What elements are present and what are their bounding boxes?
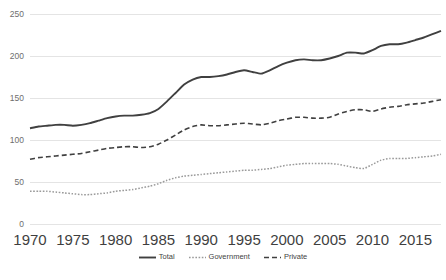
series-line-government — [30, 154, 441, 194]
legend-swatch-dotted-icon — [189, 254, 206, 261]
legend-entry-private[interactable]: Private — [264, 253, 307, 261]
gridlines — [30, 14, 441, 224]
legend-label: Private — [284, 253, 307, 261]
y-axis-tick-label: 150 — [2, 94, 24, 103]
series-lines — [30, 31, 441, 195]
y-axis-tick-label: 100 — [2, 136, 24, 145]
x-axis-tick-label: 2000 — [264, 232, 310, 247]
legend-entry-total[interactable]: Total — [139, 253, 175, 261]
x-axis-tick-label: 2010 — [350, 232, 396, 247]
x-axis-tick-label: 1975 — [50, 232, 96, 247]
legend-label: Total — [159, 253, 175, 261]
legend-swatch-dashed-icon — [264, 254, 281, 261]
line-chart: 050100150200250 197019751980198519901995… — [0, 0, 446, 280]
series-line-total — [30, 31, 441, 128]
x-axis-tick-label: 1995 — [221, 232, 267, 247]
y-axis-tick-label: 200 — [2, 52, 24, 61]
chart-legend: TotalGovernmentPrivate — [0, 253, 446, 261]
x-axis-tick-label: 2015 — [392, 232, 438, 247]
x-axis-tick-label: 2005 — [307, 232, 353, 247]
series-line-private — [30, 100, 441, 160]
legend-swatch-solid-icon — [139, 254, 156, 261]
y-axis-tick-label: 50 — [2, 178, 24, 187]
legend-label: Government — [209, 253, 250, 261]
legend-entry-government[interactable]: Government — [189, 253, 250, 261]
x-axis-tick-label: 1980 — [93, 232, 139, 247]
y-axis-tick-label: 250 — [2, 10, 24, 19]
x-axis-tick-label: 1985 — [135, 232, 181, 247]
y-axis-tick-label: 0 — [2, 220, 24, 229]
x-axis-tick-label: 1990 — [178, 232, 224, 247]
x-axis-tick-label: 1970 — [7, 232, 53, 247]
